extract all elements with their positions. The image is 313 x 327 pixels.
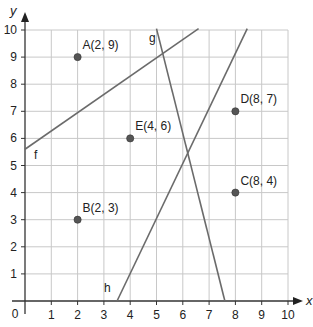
point-label-E: E(4, 6) [135,119,171,133]
grid [21,30,288,305]
y-axis-label: y [9,3,18,18]
line-label-h: h [104,281,111,295]
y-tick-label: 6 [10,131,17,145]
axes: x y 0 [9,3,313,321]
x-tick-label: 9 [258,308,265,322]
y-tick-label: 10 [4,23,18,37]
point-C [232,189,239,196]
y-tick-label: 3 [10,213,17,227]
point-label-C: C(8, 4) [240,174,277,188]
tick-labels: 1234567891012345678910 [4,23,295,322]
point-label-D: D(8, 7) [240,92,277,106]
line-g [157,29,225,301]
point-E [127,135,134,142]
y-tick-label: 8 [10,77,17,91]
x-tick-label: 3 [101,308,108,322]
y-tick-label: 1 [10,267,17,281]
point-B [74,216,81,223]
y-tick-label: 5 [10,159,17,173]
point-A [74,54,81,61]
x-tick-label: 7 [206,308,213,322]
x-tick-label: 6 [179,308,186,322]
x-axis-label: x [305,293,313,308]
line-label-g: g [149,31,156,45]
x-tick-label: 2 [74,308,81,322]
y-tick-label: 4 [10,186,17,200]
y-tick-label: 9 [10,50,17,64]
coordinate-plane: x y 0 1234567891012345678910 fgh A(2, 9)… [0,0,313,327]
x-tick-label: 5 [153,308,160,322]
lines: fgh [25,29,247,301]
point-label-A: A(2, 9) [83,38,119,52]
point-label-B: B(2, 3) [83,201,119,215]
x-tick-label: 1 [48,308,55,322]
x-tick-label: 8 [232,308,239,322]
x-tick-label: 4 [127,308,134,322]
y-tick-label: 7 [10,104,17,118]
x-tick-label: 10 [281,308,295,322]
origin-label: 0 [12,307,19,321]
y-axis-arrow-icon [21,12,29,22]
line-h [117,29,247,301]
y-tick-label: 2 [10,240,17,254]
x-axis-arrow-icon [293,297,303,305]
line-label-f: f [34,148,38,162]
point-D [232,108,239,115]
points: A(2, 9)B(2, 3)C(8, 4)D(8, 7)E(4, 6) [74,38,277,223]
